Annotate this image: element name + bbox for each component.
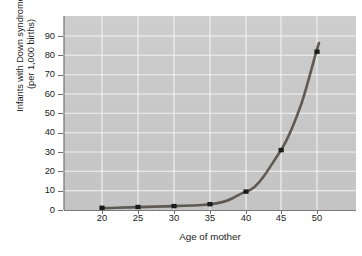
x-tick-label-40: 40 bbox=[226, 214, 266, 223]
x-tick-label-50: 50 bbox=[297, 214, 337, 223]
x-tick-label-30: 30 bbox=[154, 214, 194, 223]
x-tick-label-25: 25 bbox=[118, 214, 158, 223]
chart-figure: 90 80 70 60 50 40 30 20 10 0 20 25 30 35… bbox=[0, 0, 362, 256]
x-axis-tick-labels: 20 25 30 35 40 45 50 bbox=[0, 0, 362, 256]
x-tick-label-20: 20 bbox=[82, 214, 122, 223]
x-tick-label-45: 45 bbox=[261, 214, 301, 223]
x-axis-title: Age of mother bbox=[64, 232, 356, 242]
x-tick-label-35: 35 bbox=[190, 214, 230, 223]
